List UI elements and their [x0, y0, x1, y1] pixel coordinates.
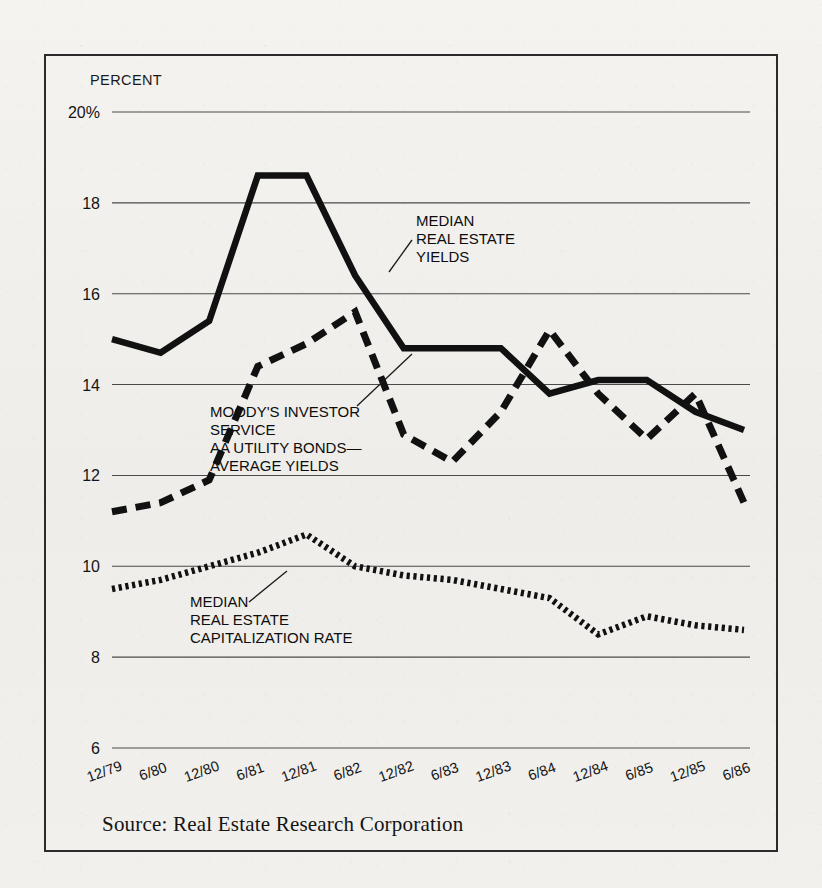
x-tick-label: 6/84 — [526, 759, 558, 784]
annotation-bonds: MOODY'S INVESTOR SERVICE AA UTILITY BOND… — [210, 354, 412, 474]
annotation-yields: MEDIAN REAL ESTATE YIELDS — [389, 212, 515, 272]
annotation-caprate-line3: CAPITALIZATION RATE — [190, 629, 353, 646]
x-tick-label: 6/86 — [720, 759, 752, 784]
y-tick-label: 12 — [82, 467, 100, 484]
y-tick-label: 14 — [82, 377, 100, 394]
x-tick-label: 12/85 — [668, 758, 708, 785]
y-tick-labels-group: 68101214161820% — [68, 104, 100, 757]
y-tick-label: 20% — [68, 104, 100, 121]
annotation-yields-line1: MEDIAN — [416, 212, 474, 229]
annotation-bonds-line4: AVERAGE YIELDS — [210, 457, 339, 474]
series-line-bonds — [112, 312, 744, 512]
x-tick-label: 12/79 — [84, 758, 124, 785]
x-tick-label: 12/81 — [279, 758, 319, 785]
annotation-caprate-line1: MEDIAN — [190, 593, 248, 610]
x-tick-label: 12/84 — [571, 758, 611, 785]
annotation-bonds-line2: SERVICE — [210, 421, 276, 438]
x-tick-label: 6/81 — [234, 759, 266, 784]
annotation-caprate-line2: REAL ESTATE — [190, 611, 289, 628]
chart-canvas: 68101214161820% 12/796/8012/806/8112/816… — [44, 54, 778, 852]
y-tick-label: 6 — [91, 740, 100, 757]
x-tick-labels-group: 12/796/8012/806/8112/816/8212/826/8312/8… — [84, 758, 752, 785]
y-tick-label: 10 — [82, 558, 100, 575]
x-tick-label: 6/82 — [331, 759, 363, 784]
x-tick-label: 12/80 — [182, 758, 222, 785]
x-tick-label: 6/85 — [623, 759, 655, 784]
y-tick-label: 8 — [91, 649, 100, 666]
x-tick-label: 12/83 — [473, 758, 513, 785]
leader-line-bonds — [357, 354, 412, 406]
x-tick-label: 6/83 — [429, 759, 461, 784]
annotation-bonds-line1: MOODY'S INVESTOR — [210, 403, 360, 420]
annotation-yields-line2: REAL ESTATE — [416, 230, 515, 247]
x-tick-label: 12/82 — [376, 758, 416, 785]
annotation-yields-line3: YIELDS — [416, 248, 469, 265]
leader-line-caprate — [249, 571, 287, 602]
x-tick-label: 6/80 — [137, 759, 169, 784]
annotation-caprate: MEDIAN REAL ESTATE CAPITALIZATION RATE — [190, 571, 353, 646]
annotation-bonds-line3: AA UTILITY BONDS— — [210, 439, 361, 456]
chart-figure: PERCENT 68101214161820% 12/796/8012/806/… — [44, 54, 778, 852]
y-tick-label: 16 — [82, 286, 100, 303]
source-note: Source: Real Estate Research Corporation — [102, 812, 463, 837]
y-tick-label: 18 — [82, 195, 100, 212]
leader-line-yields — [389, 240, 412, 272]
